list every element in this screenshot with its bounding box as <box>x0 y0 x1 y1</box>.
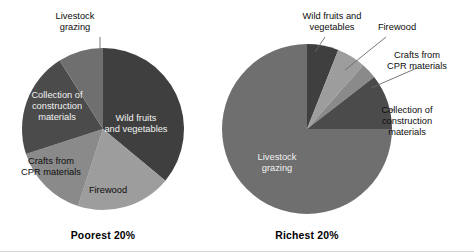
callout-label: Wild fruits andvegetables <box>303 11 362 32</box>
callout-label-line: Firewood <box>378 22 416 32</box>
callout-label: Livestockgrazing <box>56 11 95 32</box>
charts-svg: Wild fruitsand vegetablesFirewoodCrafts … <box>0 0 474 252</box>
callout-label-line: Collection of <box>381 105 433 115</box>
slice-label: CPR materials <box>21 167 81 177</box>
slice-label: Firewood <box>89 185 127 195</box>
callout-leader-line <box>345 37 386 70</box>
pie-slices-layer <box>22 44 392 214</box>
slice-label: Crafts from <box>28 156 74 166</box>
callout-label-line: grazing <box>60 22 91 32</box>
chart-captions-layer: Poorest 20% Richest 20% <box>71 230 339 241</box>
callout-label-line: construction <box>382 116 432 126</box>
callout-label-line: Wild fruits and <box>303 11 362 21</box>
pie-chart-figure: Wild fruitsand vegetablesFirewoodCrafts … <box>0 0 474 252</box>
callout-label-line: vegetables <box>310 22 355 32</box>
callout-label: Firewood <box>378 22 416 32</box>
callout-label-line: Crafts from <box>394 50 440 60</box>
slice-label: Wild fruits <box>116 113 157 123</box>
slice-label: grazing <box>262 163 293 173</box>
callout-label: Crafts fromCPR materials <box>387 50 447 71</box>
callout-label-line: materials <box>388 127 426 137</box>
callout-label-line: CPR materials <box>387 61 447 71</box>
callout-label-line: Livestock <box>56 11 95 21</box>
caption-poorest: Poorest 20% <box>71 230 136 241</box>
slice-label: Collection of <box>31 90 83 100</box>
slice-label: Livestock <box>258 152 297 162</box>
callout-label: Collection ofconstructionmaterials <box>381 105 433 137</box>
caption-richest: Richest 20% <box>275 230 338 241</box>
slice-label: materials <box>38 112 76 122</box>
slice-label: construction <box>32 101 82 111</box>
callout-leader-line <box>371 68 417 88</box>
slice-label: and vegetables <box>104 124 167 134</box>
